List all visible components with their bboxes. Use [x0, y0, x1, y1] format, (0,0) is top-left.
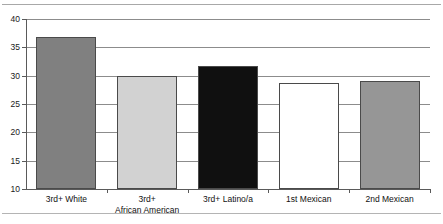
x-tick-label: 3rd+ African American — [107, 194, 188, 215]
bar — [36, 37, 96, 189]
y-tick-mark — [22, 132, 27, 133]
y-tick-label: 15 — [11, 156, 20, 166]
x-tick-label: 3rd+ Latino/a — [188, 194, 269, 205]
bar — [198, 66, 258, 189]
y-tick-label: 25 — [11, 99, 20, 109]
y-tick-label: 20 — [11, 127, 20, 137]
bar — [360, 81, 420, 189]
gridline-y — [26, 19, 430, 20]
x-tick-mark — [349, 189, 350, 193]
y-tick-label: 40 — [11, 14, 20, 24]
chart-figure: clipped title text 10152025303540 3rd+ W… — [0, 0, 443, 224]
divider-top-rule — [2, 4, 441, 5]
bar — [279, 83, 339, 189]
y-tick-mark — [22, 104, 27, 105]
divider-bottom-rule — [2, 213, 441, 214]
x-axis-line — [26, 189, 430, 190]
clipped-title-text: clipped title text — [0, 0, 443, 2]
bar — [117, 76, 177, 189]
x-tick-label: 2nd Mexican — [349, 194, 430, 205]
y-tick-mark — [22, 161, 27, 162]
y-tick-mark — [22, 19, 27, 20]
y-tick-mark — [22, 189, 27, 190]
y-tick-label: 10 — [11, 184, 20, 194]
x-tick-mark — [268, 189, 269, 193]
y-tick-mark — [22, 47, 27, 48]
y-tick-label: 35 — [11, 42, 20, 52]
y-tick-label: 30 — [11, 71, 20, 81]
y-tick-mark — [22, 76, 27, 77]
x-tick-mark — [107, 189, 108, 193]
x-tick-mark — [188, 189, 189, 193]
x-tick-label: 3rd+ White — [26, 194, 107, 205]
x-tick-mark — [430, 189, 431, 193]
x-tick-label: 1st Mexican — [268, 194, 349, 205]
